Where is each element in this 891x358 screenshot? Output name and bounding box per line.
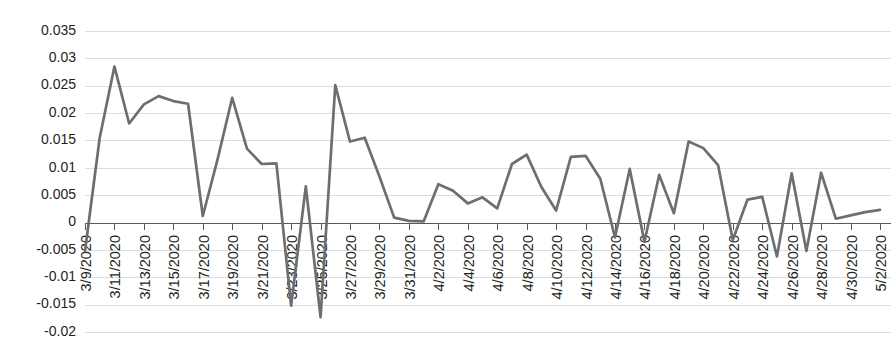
x-axis-tick-label: 4/16/2020	[637, 235, 653, 300]
x-axis-tick-label: 4/26/2020	[785, 235, 801, 300]
y-axis-tick-label: 0.035	[41, 22, 76, 38]
x-axis-tick-label: 4/30/2020	[844, 235, 860, 300]
x-axis-tick-label: 4/6/2020	[490, 235, 506, 291]
x-axis-tick-label: 5/2/2020	[873, 235, 889, 291]
x-axis-tick-label: 3/27/2020	[343, 235, 359, 300]
y-axis-tick-label: 0.03	[49, 49, 76, 65]
x-axis-tick-label: 3/19/2020	[225, 235, 241, 300]
y-axis-tick-label: 0.015	[41, 131, 76, 147]
y-axis-tick-label: 0.01	[49, 159, 76, 175]
x-axis-tick-label: 3/29/2020	[372, 235, 388, 300]
y-axis-tick-label: 0.02	[49, 104, 76, 120]
chart-canvas: 0.0350.030.0250.020.0150.010.0050-0.005-…	[0, 0, 891, 358]
x-axis-tick-label: 4/18/2020	[667, 235, 683, 300]
y-axis-labels-group: 0.0350.030.0250.020.0150.010.0050-0.005-…	[36, 22, 76, 339]
x-axis-tick-label: 3/15/2020	[166, 235, 182, 300]
x-axis-tick-label: 4/12/2020	[579, 235, 595, 300]
x-axis-tick-label: 4/28/2020	[814, 235, 830, 300]
y-axis-tick-label: 0.025	[41, 76, 76, 92]
y-axis-tick-label: 0	[68, 213, 76, 229]
y-axis-tick-label: -0.005	[36, 241, 76, 257]
y-axis-tick-label: 0.005	[41, 186, 76, 202]
y-axis-tick-label: -0.015	[36, 295, 76, 311]
x-axis-tick-label: 4/24/2020	[755, 235, 771, 300]
x-axis-tick-label: 4/20/2020	[696, 235, 712, 300]
x-axis-tick-label: 4/10/2020	[549, 235, 565, 300]
x-axis-tick-label: 4/22/2020	[726, 235, 742, 300]
x-axis-tick-label: 3/17/2020	[196, 235, 212, 300]
x-axis-labels-group: 3/9/20203/11/20203/13/20203/15/20203/17/…	[78, 235, 889, 300]
x-axis-tick-label: 4/14/2020	[608, 235, 624, 300]
x-axis-tick-label: 4/4/2020	[461, 235, 477, 291]
x-axis-tick-label: 3/11/2020	[107, 235, 123, 298]
x-axis-tick-label: 4/8/2020	[520, 235, 536, 291]
line-chart: 0.0350.030.0250.020.0150.010.0050-0.005-…	[0, 0, 891, 358]
x-axis-tick-label: 3/21/2020	[255, 235, 271, 300]
x-axis-tick-label: 3/13/2020	[137, 235, 153, 300]
x-axis-tick-label: 3/31/2020	[402, 235, 418, 300]
y-axis-tick-label: -0.01	[44, 268, 76, 284]
x-axis-tick-label: 4/2/2020	[431, 235, 447, 291]
y-axis-tick-label: -0.02	[44, 323, 76, 339]
